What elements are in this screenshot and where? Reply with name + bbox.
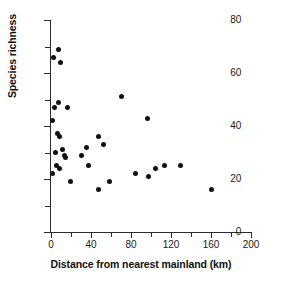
data-point <box>63 155 68 160</box>
data-point <box>145 116 150 121</box>
data-point <box>50 171 55 176</box>
x-tick-minor <box>111 232 112 237</box>
y-tick-label: 20 <box>230 174 241 184</box>
data-point <box>53 150 58 155</box>
y-tick-minor <box>45 206 50 207</box>
data-point <box>119 94 124 99</box>
y-tick-minor <box>45 100 50 101</box>
x-tick-minor <box>71 232 72 237</box>
plot-area: 020406080 04080120160200 <box>51 20 251 232</box>
data-point <box>56 47 61 52</box>
x-tick-major <box>251 232 252 238</box>
data-point <box>146 174 151 179</box>
data-point <box>84 145 89 150</box>
x-tick-major <box>51 232 52 238</box>
data-point <box>60 147 65 152</box>
x-tick-label: 160 <box>203 240 220 250</box>
x-tick-label: 120 <box>163 240 180 250</box>
y-tick-major <box>44 179 50 180</box>
y-tick-label: 0 <box>236 227 241 237</box>
data-point <box>51 55 56 60</box>
data-point <box>86 163 91 168</box>
x-tick-major <box>91 232 92 238</box>
y-tick-major <box>44 232 50 233</box>
scatter-plot-figure: 020406080 04080120160200 Distance from n… <box>0 0 282 284</box>
data-point <box>79 153 84 158</box>
x-axis-title: Distance from nearest mainland (km) <box>0 258 282 270</box>
y-tick-major <box>44 73 50 74</box>
data-point <box>133 171 138 176</box>
data-point <box>101 142 106 147</box>
data-point <box>153 166 158 171</box>
y-tick-label: 40 <box>230 121 241 131</box>
x-tick-major <box>211 232 212 238</box>
y-axis-title: Species richness <box>6 0 18 112</box>
data-point <box>57 134 62 139</box>
x-tick-minor <box>191 232 192 237</box>
y-tick-minor <box>45 47 50 48</box>
data-point <box>57 166 62 171</box>
data-point <box>56 100 61 105</box>
x-tick-label: 40 <box>85 240 96 250</box>
y-tick-label: 60 <box>230 68 241 78</box>
x-tick-minor <box>151 232 152 237</box>
x-tick-minor <box>231 232 232 237</box>
data-point <box>96 134 101 139</box>
data-point <box>50 118 55 123</box>
data-point <box>68 179 73 184</box>
y-tick-label: 80 <box>230 15 241 25</box>
data-point <box>52 105 57 110</box>
data-point <box>209 187 214 192</box>
x-tick-label: 200 <box>243 240 260 250</box>
x-tick-major <box>171 232 172 238</box>
data-point <box>96 187 101 192</box>
data-point <box>58 60 63 65</box>
x-tick-label: 0 <box>48 240 54 250</box>
y-tick-major <box>44 126 50 127</box>
data-point <box>107 179 112 184</box>
data-point <box>162 163 167 168</box>
y-tick-minor <box>45 153 50 154</box>
y-tick-major <box>44 20 50 21</box>
x-tick-label: 80 <box>125 240 136 250</box>
x-tick-major <box>131 232 132 238</box>
y-axis-line <box>50 20 51 233</box>
data-point <box>65 105 70 110</box>
data-point <box>178 163 183 168</box>
